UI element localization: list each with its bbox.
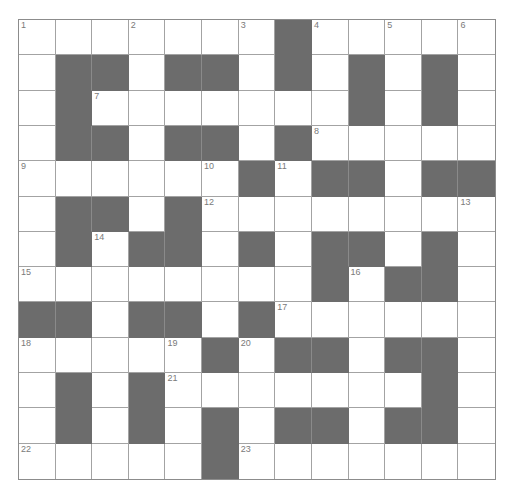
answer-cell[interactable] bbox=[56, 444, 93, 479]
answer-cell[interactable]: 5 bbox=[385, 20, 422, 55]
answer-cell[interactable] bbox=[349, 197, 386, 232]
answer-cell[interactable] bbox=[239, 408, 276, 443]
answer-cell[interactable]: 1 bbox=[19, 20, 56, 55]
answer-cell[interactable] bbox=[165, 20, 202, 55]
answer-cell[interactable] bbox=[19, 55, 56, 90]
answer-cell[interactable] bbox=[312, 91, 349, 126]
answer-cell[interactable]: 13 bbox=[458, 197, 495, 232]
answer-cell[interactable] bbox=[56, 338, 93, 373]
answer-cell[interactable] bbox=[239, 126, 276, 161]
answer-cell[interactable] bbox=[312, 302, 349, 337]
answer-cell[interactable] bbox=[385, 91, 422, 126]
answer-cell[interactable] bbox=[385, 126, 422, 161]
answer-cell[interactable] bbox=[165, 161, 202, 196]
answer-cell[interactable] bbox=[385, 444, 422, 479]
answer-cell[interactable] bbox=[349, 408, 386, 443]
answer-cell[interactable] bbox=[458, 55, 495, 90]
answer-cell[interactable] bbox=[92, 444, 129, 479]
answer-cell[interactable] bbox=[165, 267, 202, 302]
answer-cell[interactable]: 21 bbox=[165, 373, 202, 408]
answer-cell[interactable] bbox=[458, 91, 495, 126]
answer-cell[interactable] bbox=[165, 91, 202, 126]
answer-cell[interactable]: 15 bbox=[19, 267, 56, 302]
answer-cell[interactable] bbox=[312, 444, 349, 479]
answer-cell[interactable] bbox=[92, 267, 129, 302]
answer-cell[interactable] bbox=[92, 302, 129, 337]
answer-cell[interactable] bbox=[385, 373, 422, 408]
answer-cell[interactable] bbox=[92, 373, 129, 408]
answer-cell[interactable]: 10 bbox=[202, 161, 239, 196]
answer-cell[interactable] bbox=[349, 444, 386, 479]
answer-cell[interactable] bbox=[92, 338, 129, 373]
answer-cell[interactable] bbox=[19, 232, 56, 267]
answer-cell[interactable] bbox=[19, 408, 56, 443]
answer-cell[interactable] bbox=[275, 267, 312, 302]
answer-cell[interactable] bbox=[239, 55, 276, 90]
answer-cell[interactable] bbox=[422, 302, 459, 337]
answer-cell[interactable] bbox=[422, 197, 459, 232]
answer-cell[interactable]: 14 bbox=[92, 232, 129, 267]
answer-cell[interactable]: 11 bbox=[275, 161, 312, 196]
answer-cell[interactable] bbox=[275, 444, 312, 479]
answer-cell[interactable] bbox=[129, 55, 166, 90]
answer-cell[interactable] bbox=[458, 302, 495, 337]
answer-cell[interactable] bbox=[275, 232, 312, 267]
answer-cell[interactable]: 18 bbox=[19, 338, 56, 373]
answer-cell[interactable] bbox=[129, 197, 166, 232]
answer-cell[interactable] bbox=[349, 20, 386, 55]
answer-cell[interactable] bbox=[19, 373, 56, 408]
answer-cell[interactable]: 3 bbox=[239, 20, 276, 55]
answer-cell[interactable]: 19 bbox=[165, 338, 202, 373]
answer-cell[interactable] bbox=[19, 126, 56, 161]
answer-cell[interactable] bbox=[239, 91, 276, 126]
answer-cell[interactable]: 9 bbox=[19, 161, 56, 196]
answer-cell[interactable] bbox=[349, 338, 386, 373]
answer-cell[interactable] bbox=[458, 126, 495, 161]
answer-cell[interactable] bbox=[202, 20, 239, 55]
answer-cell[interactable] bbox=[458, 267, 495, 302]
answer-cell[interactable]: 8 bbox=[312, 126, 349, 161]
answer-cell[interactable] bbox=[422, 20, 459, 55]
answer-cell[interactable] bbox=[385, 161, 422, 196]
answer-cell[interactable] bbox=[422, 126, 459, 161]
answer-cell[interactable] bbox=[129, 91, 166, 126]
answer-cell[interactable]: 22 bbox=[19, 444, 56, 479]
answer-cell[interactable] bbox=[56, 161, 93, 196]
answer-cell[interactable] bbox=[129, 267, 166, 302]
answer-cell[interactable]: 2 bbox=[129, 20, 166, 55]
answer-cell[interactable] bbox=[385, 232, 422, 267]
answer-cell[interactable] bbox=[275, 373, 312, 408]
answer-cell[interactable] bbox=[458, 373, 495, 408]
answer-cell[interactable] bbox=[385, 55, 422, 90]
answer-cell[interactable] bbox=[202, 373, 239, 408]
answer-cell[interactable] bbox=[56, 20, 93, 55]
answer-cell[interactable] bbox=[312, 373, 349, 408]
answer-cell[interactable] bbox=[349, 126, 386, 161]
answer-cell[interactable] bbox=[19, 91, 56, 126]
answer-cell[interactable] bbox=[458, 444, 495, 479]
answer-cell[interactable] bbox=[129, 126, 166, 161]
answer-cell[interactable] bbox=[239, 373, 276, 408]
answer-cell[interactable] bbox=[312, 55, 349, 90]
answer-cell[interactable]: 20 bbox=[239, 338, 276, 373]
answer-cell[interactable] bbox=[165, 444, 202, 479]
answer-cell[interactable] bbox=[202, 232, 239, 267]
answer-cell[interactable] bbox=[92, 20, 129, 55]
answer-cell[interactable] bbox=[239, 267, 276, 302]
answer-cell[interactable]: 6 bbox=[458, 20, 495, 55]
answer-cell[interactable] bbox=[385, 302, 422, 337]
answer-cell[interactable] bbox=[202, 267, 239, 302]
answer-cell[interactable] bbox=[202, 91, 239, 126]
answer-cell[interactable] bbox=[202, 302, 239, 337]
answer-cell[interactable] bbox=[129, 444, 166, 479]
answer-cell[interactable] bbox=[458, 338, 495, 373]
answer-cell[interactable] bbox=[92, 161, 129, 196]
answer-cell[interactable]: 4 bbox=[312, 20, 349, 55]
answer-cell[interactable]: 7 bbox=[92, 91, 129, 126]
answer-cell[interactable] bbox=[275, 197, 312, 232]
answer-cell[interactable] bbox=[92, 408, 129, 443]
answer-cell[interactable] bbox=[56, 267, 93, 302]
answer-cell[interactable] bbox=[239, 197, 276, 232]
answer-cell[interactable]: 12 bbox=[202, 197, 239, 232]
answer-cell[interactable]: 16 bbox=[349, 267, 386, 302]
